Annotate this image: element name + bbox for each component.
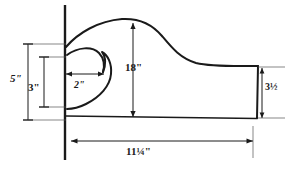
dimension-label-2-inch: 2" [74, 80, 85, 90]
dimension-label-3-inch: 3" [28, 82, 40, 93]
outline-baseline [66, 116, 257, 119]
notch-upper-lobe [67, 48, 104, 72]
dimension-label-5-inch: 5" [10, 73, 22, 84]
dimension-label-18-inch: 18" [125, 62, 142, 73]
outline-right-edge [257, 66, 258, 118]
outline-top-profile [66, 19, 258, 66]
dimension-11-and-a-quarter [71, 126, 253, 158]
dimension-3-and-a-half [258, 67, 285, 118]
dimension-label-11-and-a-quarter: 11¼" [126, 146, 151, 157]
dimension-3-inch [39, 57, 66, 107]
technical-drawing-canvas: 5" 3" 2" 18" 3½ 11¼" [0, 0, 294, 170]
dimension-2-inch [66, 71, 104, 76]
dimension-label-3-and-a-half: 3½ [265, 82, 278, 92]
